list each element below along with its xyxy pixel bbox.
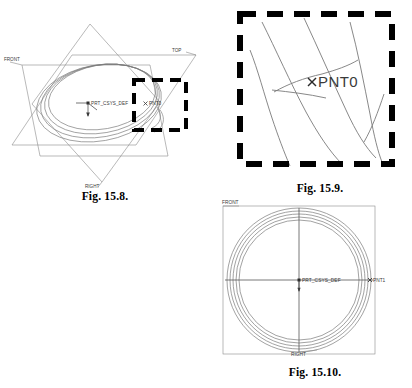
csys-label-top: PRT_CSYS_DEF	[302, 278, 341, 283]
point-label-pnt0-detail: PNT0	[318, 73, 358, 90]
point-label-pnt1: PNT1	[373, 278, 386, 283]
csys-label: PRT_CSYS_DEF	[91, 101, 128, 106]
figure-15-9-drawing: PNT0	[232, 6, 408, 178]
datum-label-front-top: FRONT	[222, 200, 239, 205]
figure-15-8-drawing: PRT_CSYS_DEF PNT0 FRONT TOP RIGHT	[0, 6, 206, 188]
leader-top	[186, 52, 196, 55]
figure-15-8: PRT_CSYS_DEF PNT0 FRONT TOP RIGHT	[0, 6, 206, 188]
figure-caption-15-8: Fig. 15.8.	[40, 190, 170, 202]
point-label-pnt0: PNT0	[149, 101, 162, 106]
leader-front	[10, 62, 22, 65]
figure-15-9: PNT0	[232, 6, 408, 178]
csys-marker-prt-csys-def-top	[297, 279, 300, 293]
figure-caption-15-10: Fig. 15.10.	[250, 366, 380, 378]
point-marker-pnt0-detail	[308, 78, 316, 86]
datum-label-top: TOP	[172, 48, 181, 53]
figure-caption-15-9: Fig. 15.9.	[255, 182, 385, 194]
datum-label-right: RIGHT	[85, 184, 99, 188]
figure-15-10: PRT_CSYS_DEF PNT1 FRONT RIGHT	[205, 196, 405, 364]
datum-label-front: FRONT	[4, 57, 20, 62]
helix-turns-detail	[250, 18, 384, 166]
figure-15-10-drawing: PRT_CSYS_DEF PNT1 FRONT RIGHT	[205, 196, 405, 364]
datum-label-right-top: RIGHT	[291, 352, 306, 357]
datum-plane-top	[12, 55, 196, 145]
point-marker-pnt0	[144, 102, 148, 106]
